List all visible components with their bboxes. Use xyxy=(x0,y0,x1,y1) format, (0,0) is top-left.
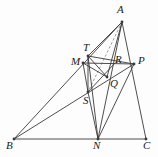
vertex-dot-layer xyxy=(13,21,148,141)
segment-MP xyxy=(83,63,134,64)
vertex-dot-S xyxy=(87,91,90,94)
point-label-T: T xyxy=(83,42,89,53)
vertex-dot-Q xyxy=(106,76,109,79)
geometry-figure: A B C N M T R P Q S xyxy=(0,0,158,157)
segment-MS xyxy=(83,63,88,92)
point-label-Q: Q xyxy=(110,78,118,89)
geometry-canvas xyxy=(0,0,158,157)
vertex-dot-A xyxy=(121,21,124,24)
point-label-S: S xyxy=(83,95,89,106)
vertex-dot-M xyxy=(82,62,85,65)
side-AB xyxy=(14,22,122,139)
vertex-dot-T xyxy=(87,55,90,58)
point-label-N: N xyxy=(93,140,100,151)
segment-layer xyxy=(14,22,146,139)
vertex-dot-B xyxy=(13,138,16,141)
point-label-C: C xyxy=(143,140,150,151)
point-label-M: M xyxy=(71,56,80,67)
point-label-R: R xyxy=(115,54,122,65)
point-label-A: A xyxy=(117,4,124,15)
point-label-P: P xyxy=(138,55,145,66)
point-label-B: B xyxy=(6,140,13,151)
vertex-dot-P xyxy=(133,63,136,66)
